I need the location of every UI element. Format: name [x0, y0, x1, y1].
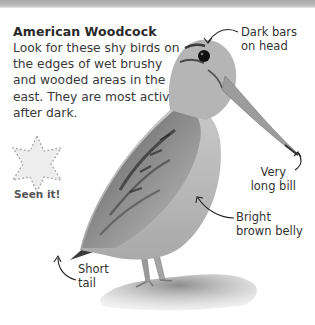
bird-bill — [222, 76, 298, 155]
callout-head: Dark bars on head — [241, 25, 297, 53]
callout-head-line1: Dark bars — [241, 25, 297, 39]
callout-tail-line2: tail — [78, 276, 109, 290]
callout-head-line2: on head — [241, 39, 297, 53]
callout-bill: Very long bill — [240, 165, 298, 193]
callout-tail-line1: Short — [78, 262, 109, 276]
callout-belly: Bright brown belly — [236, 210, 303, 238]
rock — [100, 274, 257, 310]
callout-belly-line1: Bright — [236, 210, 303, 224]
callout-bill-line1: Very — [240, 165, 298, 179]
bird-eye — [198, 50, 210, 62]
callout-belly-line2: brown belly — [236, 224, 303, 238]
bird-body — [80, 104, 221, 259]
callout-bill-line2: long bill — [240, 179, 298, 193]
callout-tail: Short tail — [78, 262, 109, 290]
